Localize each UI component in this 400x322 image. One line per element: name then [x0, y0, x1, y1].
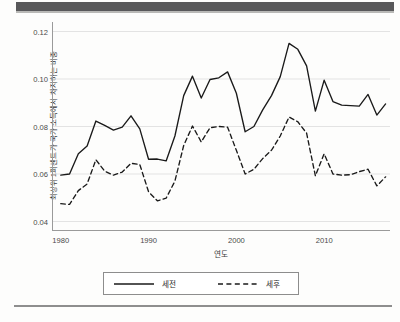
x-axis-label: 연도	[52, 248, 390, 259]
footer-rule	[14, 305, 392, 307]
series-line-pretax	[61, 43, 386, 175]
legend-swatch-solid	[114, 279, 154, 289]
y-tick-label: 0.12	[22, 27, 48, 36]
x-tick-label: 2010	[304, 236, 344, 245]
x-tick-label: 2000	[216, 236, 256, 245]
legend-swatch-dashed	[218, 279, 258, 289]
y-axis-ticks: 0.040.060.080.100.12	[20, 22, 48, 231]
legend-item-aftertax: 세후	[184, 278, 288, 289]
chart-figure: 최상위 1퍼센트가 국가 소득에서 차지하는 비중 0.040.060.080.…	[0, 12, 400, 264]
x-tick-label: 1990	[129, 236, 169, 245]
series-line-aftertax	[61, 117, 386, 204]
legend-label-aftertax: 세후	[266, 278, 280, 289]
plot-area	[52, 22, 390, 231]
legend-label-pretax: 세전	[162, 278, 176, 289]
scan-header-bar	[16, 2, 394, 11]
y-tick-label: 0.10	[22, 75, 48, 84]
x-tick-label: 1980	[41, 236, 81, 245]
legend-item-pretax: 세전	[114, 278, 184, 289]
chart-legend: 세전 세후	[103, 272, 299, 295]
page-root: 최상위 1퍼센트가 국가 소득에서 차지하는 비중 0.040.060.080.…	[0, 0, 400, 322]
y-tick-label: 0.04	[22, 217, 48, 226]
y-tick-label: 0.06	[22, 170, 48, 179]
y-tick-label: 0.08	[22, 122, 48, 131]
chart-canvas	[52, 22, 390, 231]
